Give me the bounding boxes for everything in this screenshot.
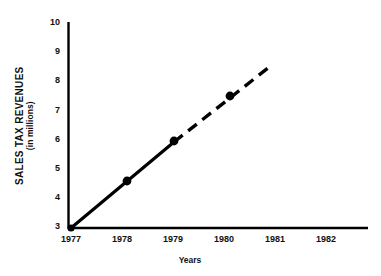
data-point-marker (123, 177, 132, 186)
y-tick-label-6: 6 (38, 134, 60, 144)
chart-container: SALES TAX REVENUES (in millions) 10 9 8 … (0, 0, 381, 276)
x-tick-label-1977: 1977 (49, 234, 93, 244)
data-line-dashed-projection (174, 68, 268, 142)
x-tick-label-1981: 1981 (253, 234, 297, 244)
y-tick-label-5: 5 (38, 163, 60, 173)
y-tick-label-4: 4 (38, 192, 60, 202)
data-point-marker (67, 224, 74, 231)
y-tick-label-3: 3 (38, 221, 60, 231)
data-point-marker (170, 137, 179, 146)
x-tick-label-1978: 1978 (100, 234, 144, 244)
x-tick-label-1980: 1980 (202, 234, 246, 244)
y-tick-label-7: 7 (38, 105, 60, 115)
y-tick-label-8: 8 (38, 75, 60, 85)
x-tick-label-1979: 1979 (151, 234, 195, 244)
x-axis-title: Years (150, 255, 230, 265)
data-point-marker (226, 92, 235, 101)
y-tick-label-9: 9 (38, 46, 60, 56)
x-tick-label-1982: 1982 (304, 234, 348, 244)
data-line-solid (71, 142, 174, 228)
y-tick-label-10: 10 (38, 17, 60, 27)
